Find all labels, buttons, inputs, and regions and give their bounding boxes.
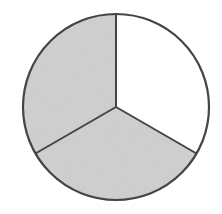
pie-chart: [0, 0, 222, 214]
